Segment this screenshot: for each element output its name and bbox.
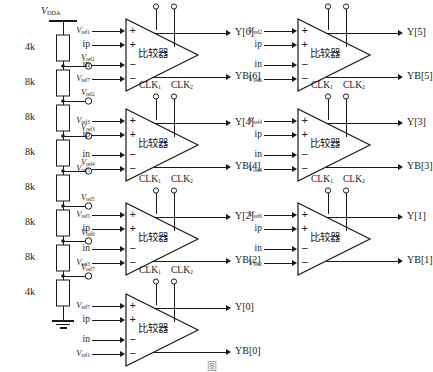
input-sign-cmp2-1: + xyxy=(130,223,136,234)
comparator-name-cmp2: 比较器 xyxy=(138,232,168,243)
resistor-value-0: 4k xyxy=(25,42,35,52)
label-main: ip xyxy=(255,39,262,49)
clk1-label-cmp3: CLK1 xyxy=(311,81,333,91)
comparator-name-cmp3: 比较器 xyxy=(310,138,340,149)
input-label-cmp5-1: ip xyxy=(212,40,262,50)
input-sign-cmp6-1: + xyxy=(130,39,136,50)
input-label-cmp3-1: ip xyxy=(212,130,262,140)
label-subscript: 1 xyxy=(158,269,161,275)
label-main: in xyxy=(83,59,90,69)
comparator-name-cmp0: 比较器 xyxy=(138,323,168,334)
clk1-label-cmp2: CLK1 xyxy=(139,175,161,185)
input-label-cmp1-2: in xyxy=(212,244,262,254)
comparator-block-cmp1[interactable] xyxy=(240,173,400,263)
input-sign-cmp4-2: − xyxy=(130,149,136,160)
input-label-cmp2-0: Vref5 xyxy=(40,210,90,219)
label-main: in xyxy=(255,59,262,69)
input-sign-cmp5-1: + xyxy=(302,39,308,50)
resistor-value-1: 8k xyxy=(25,77,35,87)
input-label-cmp1-1: ip xyxy=(212,224,262,234)
clk1-label-cmp0: CLK1 xyxy=(139,266,161,276)
input-label-cmp2-1: ip xyxy=(40,224,90,234)
comparator-block-cmp3[interactable] xyxy=(240,79,400,169)
comparator-name-cmp6: 比较器 xyxy=(138,48,168,59)
label-main: ip xyxy=(83,129,90,139)
input-sign-cmp2-2: − xyxy=(130,243,136,254)
label-main: ip xyxy=(83,223,90,233)
clk2-label-cmp2: CLK2 xyxy=(171,175,193,185)
comparator-name-cmp5: 比较器 xyxy=(310,48,340,59)
output-label-cmp0-0: Y[0] xyxy=(235,302,254,312)
input-sign-cmp1-2: − xyxy=(302,243,308,254)
label-subscript: 1 xyxy=(158,84,161,90)
comparator-block-cmp4[interactable] xyxy=(68,79,228,169)
input-label-cmp2-2: in xyxy=(40,244,90,254)
resistor-value-4: 8k xyxy=(25,182,35,192)
clk2-label-cmp3: CLK2 xyxy=(343,81,365,91)
label-subscript: ref6 xyxy=(254,213,262,219)
input-sign-cmp3-2: − xyxy=(302,149,308,160)
label-subscript: 2 xyxy=(190,269,193,275)
label-main: CLK xyxy=(311,80,330,90)
label-main: CLK xyxy=(171,265,190,275)
input-label-cmp0-1: ip xyxy=(40,315,90,325)
input-sign-cmp1-0: + xyxy=(302,209,308,220)
label-subscript: 2 xyxy=(190,84,193,90)
input-sign-cmp3-0: + xyxy=(302,115,308,126)
input-label-cmp4-0: Vref3 xyxy=(40,116,90,125)
input-sign-cmp0-1: + xyxy=(130,314,136,325)
label-main: CLK xyxy=(311,174,330,184)
clk1-label-cmp6: CLK1 xyxy=(139,0,161,1)
input-sign-cmp6-0: + xyxy=(130,25,136,36)
label-main: ip xyxy=(255,223,262,233)
input-label-cmp3-0: Vref4 xyxy=(212,116,262,125)
comparator-block-cmp0[interactable] xyxy=(68,264,228,354)
label-main: CLK xyxy=(343,174,362,184)
label-main: in xyxy=(83,149,90,159)
input-sign-cmp0-0: + xyxy=(130,300,136,311)
input-sign-cmp3-1: + xyxy=(302,129,308,140)
label-main: ip xyxy=(83,314,90,324)
input-sign-cmp5-2: − xyxy=(302,59,308,70)
label-subscript: 1 xyxy=(330,178,333,184)
label-subscript: 1 xyxy=(158,178,161,184)
comparator-block-cmp5[interactable] xyxy=(240,0,400,79)
resistor-value-2: 8k xyxy=(25,112,35,122)
input-label-cmp5-2: in xyxy=(212,60,262,70)
label-main: CLK xyxy=(343,80,362,90)
clk2-label-cmp4: CLK2 xyxy=(171,81,193,91)
input-sign-cmp6-2: − xyxy=(130,59,136,70)
label-subscript: ref3 xyxy=(82,119,90,125)
input-label-cmp6-0: Vref1 xyxy=(40,26,90,35)
clk1-label-cmp1: CLK1 xyxy=(311,175,333,185)
output-label-cmp5-0: Y[5] xyxy=(407,27,426,37)
input-sign-cmp5-0: + xyxy=(302,25,308,36)
input-label-cmp3-2: in xyxy=(212,150,262,160)
input-label-cmp4-1: ip xyxy=(40,130,90,140)
clk2-label-cmp1: CLK2 xyxy=(343,175,365,185)
resistor-value-7: 4k xyxy=(25,287,35,297)
label-main: CLK xyxy=(139,174,158,184)
input-label-cmp5-0: Vref2 xyxy=(212,26,262,35)
label-main: in xyxy=(255,149,262,159)
input-label-cmp6-2: in xyxy=(40,60,90,70)
comparator-block-cmp6[interactable] xyxy=(68,0,228,79)
input-label-cmp0-2: in xyxy=(40,335,90,345)
label-subscript: ref2 xyxy=(254,29,262,35)
clk1-label-cmp5: CLK1 xyxy=(311,0,333,1)
label-main: CLK xyxy=(171,80,190,90)
input-sign-cmp1-3: − xyxy=(302,257,308,268)
input-sign-cmp1-1: + xyxy=(302,223,308,234)
label-subscript: DDA xyxy=(47,9,60,16)
output-label-cmp3-0: Y[3] xyxy=(407,117,426,127)
resistor-value-3: 8k xyxy=(25,147,35,157)
input-label-cmp0-3: Vref1 xyxy=(40,349,90,358)
label-main: ip xyxy=(255,129,262,139)
clk2-label-cmp5: CLK2 xyxy=(343,0,365,1)
figure-caption: 图 xyxy=(0,358,423,372)
comparator-block-cmp2[interactable] xyxy=(68,173,228,263)
label-subscript: ref7 xyxy=(82,304,90,310)
input-sign-cmp0-2: − xyxy=(130,334,136,345)
label-subscript: 1 xyxy=(330,84,333,90)
